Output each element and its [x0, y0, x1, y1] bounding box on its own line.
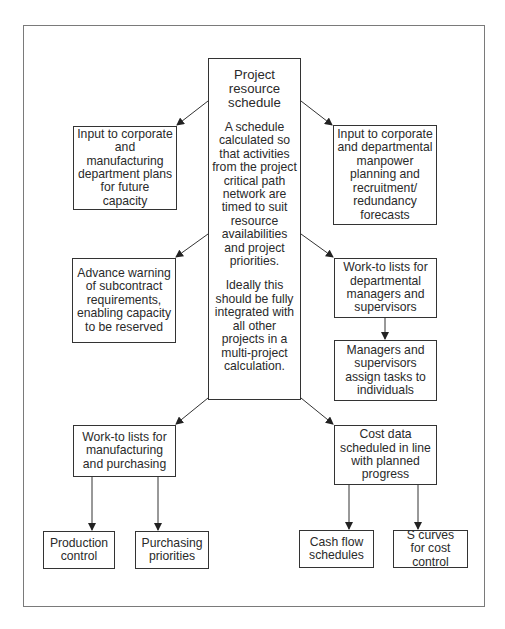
- corporate-manpower-box: Input to corporate and departmental manp…: [333, 125, 437, 225]
- production-control-text: Production control: [50, 537, 108, 564]
- worklists-departmental-text: Work-to lists for departmental managers …: [338, 261, 433, 315]
- arrow-central-to-worklists-departmental: [301, 234, 333, 257]
- purchasing-priorities-text: Purchasing priorities: [142, 537, 203, 564]
- production-control-box: Production control: [43, 531, 115, 569]
- central-title: Project resource schedule: [212, 68, 297, 110]
- s-curves-text: S curves for cost control: [398, 529, 463, 569]
- subcontract-warning-text: Advance warning of subcontract requireme…: [76, 267, 172, 334]
- worklists-manufacturing-box: Work-to lists for manufacturing and purc…: [73, 425, 176, 477]
- purchasing-priorities-box: Purchasing priorities: [135, 531, 209, 569]
- arrow-central-to-corporate-manufacturing: [177, 101, 208, 125]
- s-curves-box: S curves for cost control: [393, 530, 468, 568]
- central-note: Ideally this should be fully integrated …: [212, 279, 297, 373]
- subcontract-warning-box: Advance warning of subcontract requireme…: [72, 258, 176, 343]
- cost-data-box: Cost data scheduled in line with planned…: [334, 425, 437, 485]
- assign-tasks-box: Managers and supervisors assign tasks to…: [334, 340, 437, 401]
- project-resource-schedule-box: Project resource schedule A schedule cal…: [208, 58, 301, 400]
- corporate-manufacturing-text: Input to corporate and manufacturing dep…: [77, 128, 173, 208]
- worklists-departmental-box: Work-to lists for departmental managers …: [334, 258, 437, 318]
- cash-flow-text: Cash flow schedules: [309, 536, 364, 563]
- cash-flow-box: Cash flow schedules: [299, 530, 374, 568]
- arrow-central-to-worklists-manufacturing: [176, 398, 208, 424]
- corporate-manpower-text: Input to corporate and departmental manp…: [337, 128, 433, 222]
- central-description: A schedule calculated so that activities…: [212, 121, 297, 268]
- worklists-manufacturing-text: Work-to lists for manufacturing and purc…: [77, 431, 172, 471]
- cost-data-text: Cost data scheduled in line with planned…: [338, 428, 433, 482]
- assign-tasks-text: Managers and supervisors assign tasks to…: [338, 344, 433, 398]
- arrow-central-to-corporate-manpower: [301, 101, 332, 125]
- arrow-central-to-subcontract-warning: [176, 234, 208, 257]
- arrow-central-to-cost-data: [301, 398, 333, 424]
- corporate-manufacturing-box: Input to corporate and manufacturing dep…: [73, 126, 177, 210]
